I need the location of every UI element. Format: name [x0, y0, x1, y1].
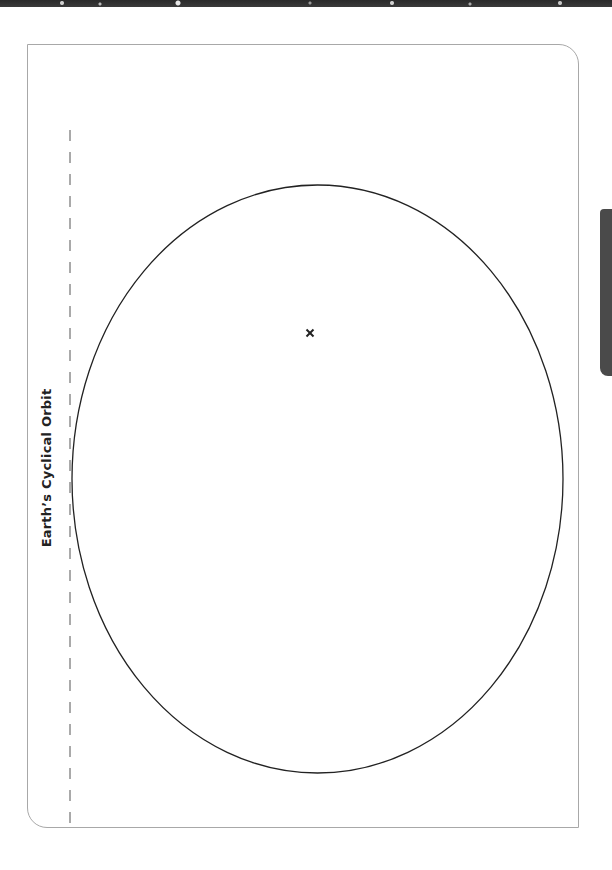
orbit-ellipse: [72, 185, 563, 773]
orbit-diagram: [0, 0, 612, 870]
worksheet-title: Earth’s Cyclical Orbit: [39, 389, 54, 548]
focus-x-marker: [307, 330, 314, 337]
